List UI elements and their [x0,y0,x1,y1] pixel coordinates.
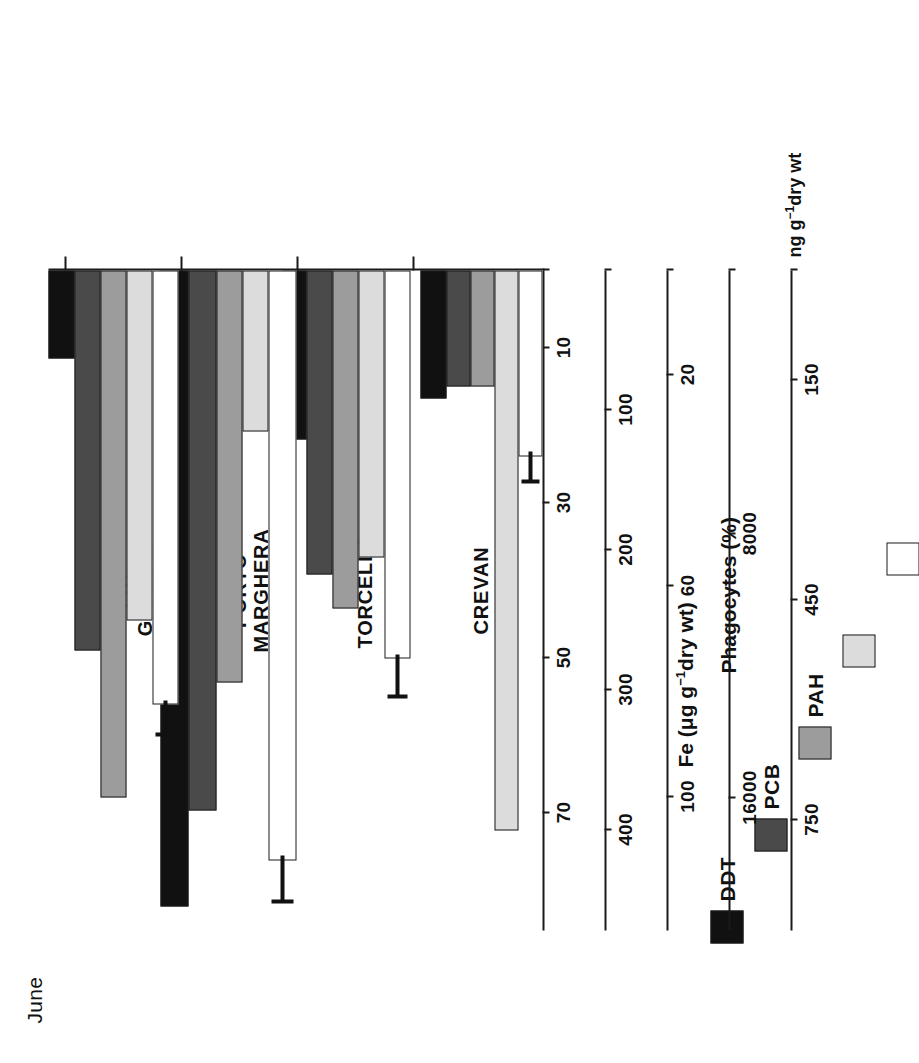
bar-porto-pcb [188,270,216,810]
legend-swatch-fe [842,634,875,667]
bar-lio-ddt [48,270,74,358]
axis-tick-fe-300 [604,688,611,690]
bar-porto-phagocytes [268,270,296,860]
legend-label-pcb: PCB [759,763,783,809]
legend-swatch-ddt [710,910,743,943]
axis-ticklabel-fe-400: 400 [614,813,636,846]
axis-ticklabel-fe-200: 200 [614,533,636,566]
axis-ticklabel-fe-100: 100 [614,393,636,426]
bar-crevan-pcb [446,270,470,386]
axis-tick-phago-70 [542,811,549,813]
bar-lio-pah [100,270,126,797]
figure-title: June [22,976,46,1023]
axis-ticklabel-phago-10: 10 [552,336,574,358]
axis-ticklabel-phago-50: 50 [552,646,574,668]
axis-tick-ddt-0 [790,268,797,270]
axis-ticklabel-pah-100: 100 [676,780,698,813]
bar-lio-fe [126,270,152,620]
axis-tick-ddt-450 [790,598,797,600]
errorbar-torcello-phagocytes [384,654,410,698]
errorbar-crevan-phagocytes [518,451,542,483]
legend-item-pah: PAH [798,673,831,759]
legend-swatch-pah [798,726,831,759]
axis-line-pah [666,270,668,930]
axis-ticklabel-phago-30: 30 [552,491,574,513]
axis-tick-fe-0 [604,268,611,270]
bar-torcello-phagocytes [384,270,410,658]
axis-ticklabel-ddt-750: 750 [800,803,822,836]
bar-torcello-fe [358,270,384,557]
bar-crevan-phagocytes [518,270,542,456]
errorbar-porto-phagocytes [268,855,296,903]
axis-ticklabel-pcb-16000: 16000 [738,770,760,824]
axis-ticklabel-pah-60: 60 [676,574,698,596]
axis-tick-phago-10 [542,346,549,348]
axis-tick-pcb-0 [728,268,735,270]
axis-ticklabel-fe-300: 300 [614,673,636,706]
axis-tick-pcb-8000 [728,532,735,534]
bar-lio-phagocytes [152,270,178,704]
axis-tick-pah-0 [666,268,673,270]
axis-tick-ddt-750 [790,818,797,820]
axis-ticklabel-ddt-150: 150 [800,363,822,396]
axis-title-fe: Fe (μg g−1dry wt) [672,602,697,767]
axis-unit-ddt: ng g−1dry wt [782,152,805,257]
errorbar-lio-phagocytes [152,700,178,736]
bar-porto-pah [216,270,242,682]
bar-crevan-pah [470,270,494,386]
category-tick-porto [180,256,182,270]
bar-lio-pcb [74,270,100,650]
legend-swatch-phagocytes [886,542,919,575]
category-tick-torcello [296,256,298,270]
axis-tick-fe-400 [604,828,611,830]
bar-crevan-fe [494,270,518,830]
category-tick-crevan [412,256,414,270]
axis-tick-pcb-16000 [728,796,735,798]
legend-label-ddt: DDT [715,856,739,901]
axis-ticklabel-pah-20: 20 [676,363,698,385]
legend-item-ddt: DDT [710,856,743,943]
axis-ticklabel-phago-70: 70 [552,801,574,823]
bar-porto-fe [242,270,268,431]
axis-tick-fe-200 [604,548,611,550]
axis-tick-fe-100 [604,408,611,410]
axis-ticklabel-pcb-8000: 8000 [738,511,760,554]
axis-tick-phago-30 [542,501,549,503]
category-label-crevan: CREVAN [470,546,492,634]
axis-line-pcb [728,270,730,930]
bar-crevan-ddt [420,270,446,398]
legend-item-phagocytes [886,542,919,575]
bar-torcello-pah [332,270,358,608]
axis-tick-pah-60 [666,584,673,586]
legend-label-pah: PAH [803,673,827,717]
axis-tick-pah-20 [666,373,673,375]
bar-torcello-pcb [306,270,332,574]
axis-line-fe [604,270,606,930]
axis-tick-pah-100 [666,795,673,797]
legend-item-fe [842,634,875,667]
axis-ticklabel-ddt-450: 450 [800,583,822,616]
category-tick-lio [64,256,66,270]
axis-tick-ddt-150 [790,378,797,380]
axis-tick-phago-50 [542,656,549,658]
